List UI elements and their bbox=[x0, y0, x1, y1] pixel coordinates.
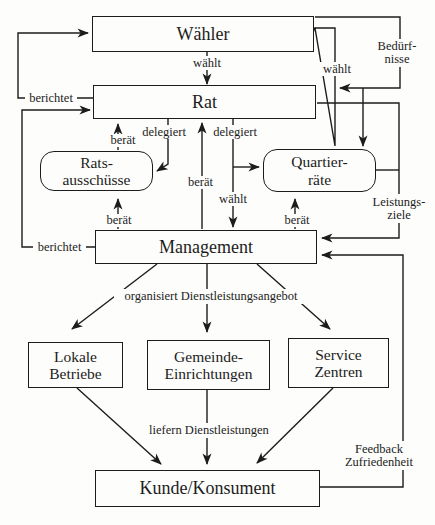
node-rat-label: Rat bbox=[192, 92, 217, 112]
node-gemeinde-einrichtungen-line1: Gemeinde- bbox=[174, 348, 243, 365]
edge-label-leistungsziele-line2: ziele bbox=[387, 209, 411, 222]
node-quartierraete: Quartier- räte bbox=[263, 149, 376, 192]
edge-label-waehlt-top: wählt bbox=[185, 56, 229, 70]
edge-label-feedback-line2: Zufriedenheit bbox=[345, 456, 413, 469]
edge-label-feedback-line1: Feedback bbox=[355, 443, 403, 456]
edge-label-leistungsziele: Leistungs- ziele bbox=[366, 194, 432, 223]
node-waehler-label: Wähler bbox=[177, 24, 230, 44]
edge-label-beduerfnisse: Bedürf- nisse bbox=[368, 39, 426, 67]
node-gemeinde-einrichtungen: Gemeinde- Einrichtungen bbox=[147, 340, 270, 390]
edge-label-beraet-management-ratsausschuesse: berät bbox=[101, 214, 137, 227]
edge-label-beraet-center: berät bbox=[182, 176, 219, 189]
node-gemeinde-einrichtungen-line2: Einrichtungen bbox=[165, 365, 253, 382]
edge-label-beduerfnisse-line2: nisse bbox=[385, 53, 410, 66]
diagram-canvas: Wähler Rat Rats- ausschüsse Quartier- rä… bbox=[0, 0, 435, 525]
node-service-zentren-line1: Service bbox=[315, 346, 361, 363]
edge-waehler-waehlt-quartierraete bbox=[315, 28, 335, 146]
node-rat: Rat bbox=[93, 85, 316, 119]
node-ratsausschuesse-line2: ausschüsse bbox=[62, 171, 130, 188]
node-ratsausschuesse-line1: Rats- bbox=[80, 154, 113, 171]
edge-label-beraet-ratsausschuesse-rat: berät bbox=[105, 134, 141, 147]
node-kunde: Kunde/Konsument bbox=[95, 470, 320, 507]
edge-label-waehlt-center: wählt bbox=[211, 192, 255, 206]
node-lokale-betriebe-line1: Lokale bbox=[54, 348, 97, 365]
node-lokale-betriebe: Lokale Betriebe bbox=[28, 342, 123, 388]
edge-label-leistungsziele-line1: Leistungs- bbox=[373, 196, 426, 209]
node-quartierraete-line2: räte bbox=[308, 171, 331, 188]
node-management-label: Management bbox=[159, 237, 253, 257]
edge-label-delegiert-right: delegiert bbox=[211, 125, 259, 139]
edge-label-berichtet-top: berichtet bbox=[25, 91, 77, 105]
edge-label-berichtet-bottom: berichtet bbox=[33, 240, 86, 254]
node-service-zentren: Service Zentren bbox=[288, 338, 389, 388]
edge-label-delegiert-left: delegiert bbox=[140, 125, 188, 139]
edge-label-liefern: liefern Dienstleistungen bbox=[143, 423, 275, 438]
node-kunde-label: Kunde/Konsument bbox=[140, 478, 276, 498]
node-management: Management bbox=[95, 230, 317, 264]
node-service-zentren-line2: Zentren bbox=[314, 363, 362, 380]
edge-label-beraet-management-quartierraete: berät bbox=[279, 214, 315, 227]
edge-label-organisiert: organisiert Dienstleistungsangebot bbox=[114, 289, 308, 304]
edge-rat-berichtet-waehler bbox=[18, 33, 93, 98]
node-waehler: Wähler bbox=[92, 16, 314, 52]
node-quartierraete-line1: Quartier- bbox=[291, 153, 348, 170]
node-ratsausschuesse: Rats- ausschüsse bbox=[40, 151, 153, 191]
edge-label-feedback: Feedback Zufriedenheit bbox=[340, 441, 418, 470]
edge-label-waehlt-right: wählt bbox=[315, 62, 359, 76]
node-lokale-betriebe-line2: Betriebe bbox=[49, 365, 102, 382]
